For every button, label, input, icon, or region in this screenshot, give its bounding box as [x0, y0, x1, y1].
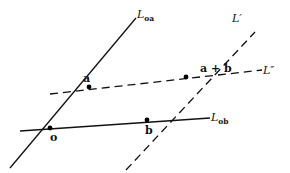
point-b — [145, 118, 150, 123]
vector-diagram: o a b a + b Loa Lob L′ L″ — [0, 0, 290, 173]
line-l-oa — [10, 18, 136, 168]
label-o: o — [50, 131, 57, 144]
label-l-double-prime: L″ — [262, 64, 275, 77]
label-a: a — [83, 72, 90, 85]
line-l-prime — [126, 32, 255, 170]
label-l-prime: L′ — [231, 12, 242, 25]
label-b: b — [145, 124, 153, 137]
point-o — [48, 126, 53, 131]
label-l-ob: Lob — [210, 111, 229, 126]
point-a-plus-b — [184, 75, 189, 80]
label-l-oa: Loa — [136, 8, 154, 23]
label-a-plus-b: a + b — [200, 62, 232, 75]
point-a — [87, 85, 92, 90]
